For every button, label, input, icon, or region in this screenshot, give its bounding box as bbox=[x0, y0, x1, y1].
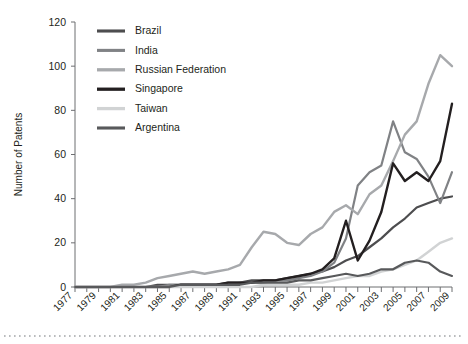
series-line-argentina bbox=[75, 261, 452, 288]
y-axis: 020406080100120Number of Patents bbox=[13, 16, 75, 293]
x-axis-tick-label: 1985 bbox=[145, 289, 169, 313]
x-axis: 1977197919811983198519871989199119931995… bbox=[51, 287, 452, 313]
y-axis-tick-label: 100 bbox=[48, 60, 66, 72]
x-axis-tick-label: 1981 bbox=[98, 289, 122, 313]
x-axis-tick-label: 1989 bbox=[192, 289, 216, 313]
x-axis-tick-label: 1983 bbox=[122, 289, 146, 313]
x-axis-tick-label: 2001 bbox=[334, 289, 358, 313]
y-axis-tick-label: 120 bbox=[48, 16, 66, 28]
series-lines bbox=[75, 55, 452, 287]
x-axis-tick-label: 1995 bbox=[263, 289, 287, 313]
series-line-brazil bbox=[75, 196, 452, 287]
chart-canvas: 020406080100120Number of Patents 1977197… bbox=[0, 0, 468, 344]
legend-label-argentina: Argentina bbox=[135, 121, 180, 133]
x-axis-tick-label: 2009 bbox=[428, 289, 452, 313]
y-axis-tick-label: 60 bbox=[54, 148, 66, 160]
legend-label-india: India bbox=[135, 44, 158, 56]
y-axis-tick-label: 40 bbox=[54, 192, 66, 204]
x-axis-tick-label: 1991 bbox=[216, 289, 240, 313]
x-axis-tick-label: 1993 bbox=[239, 289, 263, 313]
legend-label-brazil: Brazil bbox=[135, 24, 161, 36]
x-axis-tick-label: 1979 bbox=[74, 289, 98, 313]
legend-label-singapore: Singapore bbox=[135, 82, 183, 94]
y-axis-title: Number of Patents bbox=[13, 113, 24, 196]
x-axis-tick-label: 1997 bbox=[287, 289, 311, 313]
chart-legend: BrazilIndiaRussian FederationSingaporeTa… bbox=[97, 24, 226, 133]
legend-label-taiwan: Taiwan bbox=[135, 102, 168, 114]
x-axis-tick-label: 1987 bbox=[169, 289, 193, 313]
patents-line-chart: 020406080100120Number of Patents 1977197… bbox=[0, 0, 468, 344]
x-axis-tick-label: 2003 bbox=[357, 289, 381, 313]
y-axis-tick-label: 80 bbox=[54, 104, 66, 116]
series-line-india bbox=[75, 121, 452, 287]
series-line-russian-federation bbox=[75, 55, 452, 287]
legend-label-russian-federation: Russian Federation bbox=[135, 63, 226, 75]
x-axis-tick-label: 2007 bbox=[404, 289, 428, 313]
x-axis-tick-label: 2005 bbox=[381, 289, 405, 313]
series-line-singapore bbox=[75, 104, 452, 287]
x-axis-tick-label: 1999 bbox=[310, 289, 334, 313]
y-axis-tick-label: 20 bbox=[54, 236, 66, 248]
x-axis-tick-label: 1977 bbox=[51, 289, 75, 313]
